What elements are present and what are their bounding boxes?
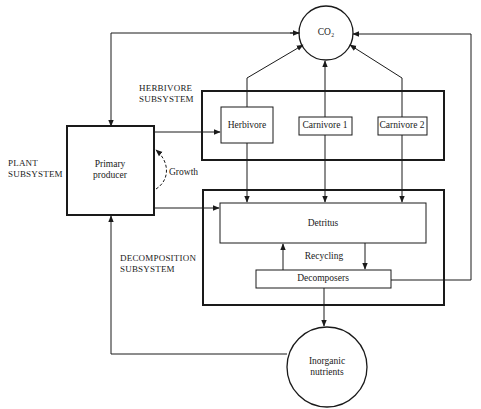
decomposition-subsystem-label: DECOMPOSITION SUBSYSTEM: [120, 253, 196, 275]
herbivore-subsystem-label: HERBIVORE SUBSYSTEM: [139, 83, 194, 105]
herbivore-subsystem-line2: SUBSYSTEM: [139, 94, 194, 105]
nutrients-to-producer-line: [111, 216, 287, 354]
plant-subsystem-label: PLANT SUBSYSTEM: [8, 158, 63, 180]
recycling-label: Recycling: [305, 251, 344, 262]
decomposition-subsystem-line1: DECOMPOSITION: [120, 253, 196, 264]
growth-label: Growth: [169, 167, 198, 178]
herbivore-label: Herbivore: [228, 120, 267, 131]
decomposers-label: Decomposers: [297, 273, 349, 284]
primary-producer-line2: producer: [93, 170, 127, 181]
inorganic-nutrients-line1: Inorganic: [309, 356, 345, 367]
herbivore-to-co2-arrow: [247, 45, 303, 107]
inorganic-nutrients-line2: nutrients: [309, 367, 345, 378]
herbivore-subsystem-line1: HERBIVORE: [139, 83, 194, 94]
primary-producer-label: Primary producer: [93, 159, 127, 181]
ecosystem-diagram: [0, 0, 481, 409]
growth-arc: [156, 150, 167, 189]
decomposition-subsystem-line2: SUBSYSTEM: [120, 264, 196, 275]
inorganic-nutrients-label: Inorganic nutrients: [309, 356, 345, 378]
detritus-label: Detritus: [308, 218, 339, 229]
plant-subsystem-line2: SUBSYSTEM: [8, 169, 63, 180]
plant-subsystem-line1: PLANT: [8, 158, 63, 169]
co2-to-producer-line: [111, 33, 300, 126]
carnivore2-label: Carnivore 2: [379, 120, 424, 131]
carnivore1-label: Carnivore 1: [302, 120, 347, 131]
co2-label: CO₂: [318, 27, 335, 38]
primary-producer-line1: Primary: [93, 159, 127, 170]
carnivore2-to-co2-arrow: [350, 45, 402, 117]
